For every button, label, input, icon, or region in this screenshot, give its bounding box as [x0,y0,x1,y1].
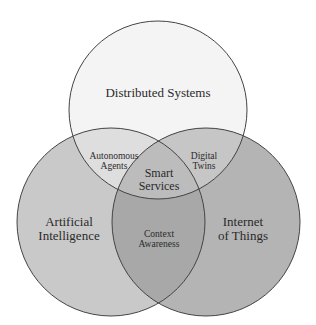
venn-diagram [0,0,316,325]
label-line: Intelligence [38,229,99,243]
label-line: Awareness [139,240,180,250]
label-line: Twins [191,162,217,172]
label-smart-services: Smart Services [139,167,180,192]
label-autonomous-agents: Autonomous Agents [89,152,138,172]
label-distributed-systems: Distributed Systems [105,86,210,100]
label-artificial-intelligence: Artificial Intelligence [38,215,99,242]
label-line: Artificial [38,215,99,229]
label-internet-of-things: Internet of Things [218,215,268,242]
label-digital-twins: Digital Twins [191,152,217,172]
label-line: Internet [218,215,268,229]
label-line: Services [139,180,180,193]
label-line: Agents [89,162,138,172]
label-line: Smart [139,167,180,180]
label-line: of Things [218,229,268,243]
label-context-awareness: Context Awareness [139,230,180,250]
